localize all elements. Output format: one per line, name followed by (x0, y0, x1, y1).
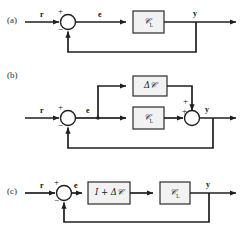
sign-a-plus: + (58, 8, 63, 14)
signal-label-c-r: r (40, 181, 44, 190)
diagram-canvas (0, 0, 245, 236)
sign-a-minus: − (58, 26, 63, 32)
sign-b2-top-plus: + (183, 98, 188, 104)
block-label-a-gl: 𝒞L (133, 16, 164, 28)
signal-label-a-r: r (40, 10, 44, 19)
block-label-c-idg: 𝐼 + Δ𝒞 (88, 187, 130, 198)
block-c-gl-subscript: L (176, 193, 179, 199)
sign-b1-minus: − (58, 122, 63, 128)
panel-a-graphics (25, 11, 236, 52)
panel-label-b: (b) (7, 70, 18, 80)
signal-label-b-r: r (40, 106, 44, 115)
block-b-dg-symbol: Δ𝒞 (144, 80, 156, 90)
signal-label-a-e: e (98, 10, 102, 19)
block-label-b-gl: 𝒞L (133, 112, 164, 124)
sign-c-minus: − (54, 197, 59, 203)
signal-label-c-e: e (74, 181, 78, 190)
block-a-gl-subscript: L (150, 22, 153, 28)
signal-label-c-y: y (206, 180, 210, 189)
block-label-c-gl: 𝒞L (160, 187, 190, 199)
panel-label-c: (c) (7, 186, 17, 196)
block-b-gl-subscript: L (150, 118, 153, 124)
sign-b1-plus: + (58, 104, 63, 110)
sign-b2-left-plus: + (182, 108, 187, 114)
panel-label-a: (a) (7, 15, 17, 25)
block-label-b-dg: Δ𝒞 (133, 80, 167, 91)
signal-label-a-y: y (193, 9, 197, 18)
block-c-idg-symbol: 𝐼 + Δ𝒞 (95, 187, 123, 197)
signal-label-b-e: e (86, 106, 90, 115)
sign-c-plus: + (54, 179, 59, 185)
signal-label-b-y: y (205, 105, 209, 114)
block-diagram-figure: (a) r + − e 𝒞L y (b) r + − e Δ𝒞 𝒞L + + y… (0, 0, 245, 236)
